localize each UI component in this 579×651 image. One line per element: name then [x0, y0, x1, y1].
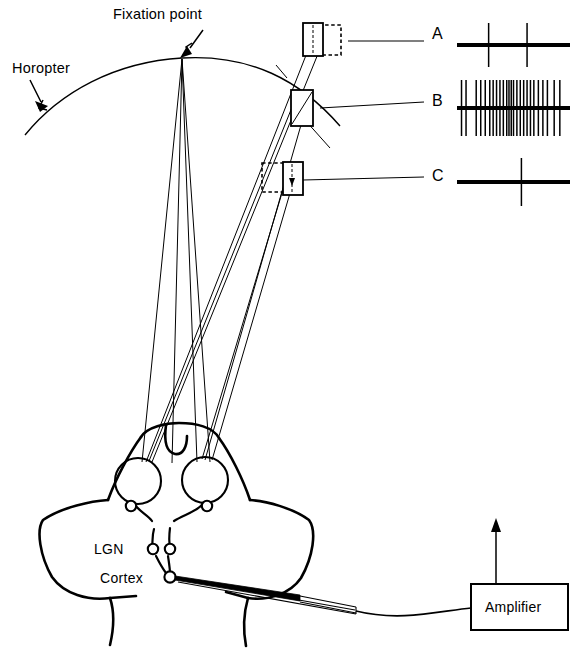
spike-train-b [457, 80, 570, 136]
amplifier-output-arrow [491, 518, 501, 584]
leader-line-c [303, 177, 424, 180]
left-retinal-node [126, 501, 136, 511]
spike-train-a [457, 23, 570, 67]
trace-label-b: B [432, 92, 443, 109]
lgn-node-right [165, 544, 175, 554]
trace-label-c: C [432, 167, 444, 184]
right-retinal-node [202, 501, 212, 511]
left-eye [115, 458, 161, 504]
cortex-label: Cortex [100, 570, 143, 586]
lgn-node-left [148, 544, 158, 554]
amplifier-box[interactable]: Amplifier [471, 584, 568, 630]
lgn-label: LGN [94, 541, 124, 557]
trace-label-a: A [432, 25, 443, 42]
electrode-wire [356, 608, 471, 616]
leader-line-b [320, 102, 424, 108]
horopter-label: Horopter [12, 60, 70, 76]
stimulus-box-b[interactable] [291, 90, 313, 126]
figure-caption [0, 639, 579, 651]
right-eye [182, 457, 228, 503]
fixation-point-label: Fixation point [113, 6, 202, 22]
amplifier-label: Amplifier [485, 599, 541, 615]
cortex-node [164, 571, 175, 582]
spike-train-c [457, 158, 570, 206]
microelectrode [175, 576, 356, 614]
figure-root: Horopter Fixation point [0, 0, 579, 651]
stimulus-box-a[interactable] [303, 23, 341, 56]
binocular-disparity-diagram: Horopter Fixation point [0, 0, 579, 651]
visual-pathway [134, 504, 203, 573]
head-outline [40, 423, 314, 646]
